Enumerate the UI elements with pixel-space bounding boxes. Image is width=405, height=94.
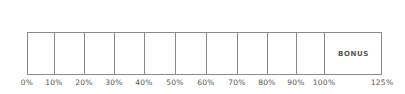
tick-label: 20%: [75, 78, 93, 87]
tick-label: 40%: [135, 78, 153, 87]
divider-10: [54, 32, 55, 75]
tick-label: 70%: [228, 78, 246, 87]
tick-label: 60%: [197, 78, 215, 87]
tick-label: 80%: [258, 78, 276, 87]
tick-label: 100%: [313, 78, 336, 87]
tick-label: 30%: [105, 78, 123, 87]
divider-30: [114, 32, 115, 75]
divider-70: [237, 32, 238, 75]
tick-label: 10%: [45, 78, 63, 87]
divider-40: [144, 32, 145, 75]
divider-20: [84, 32, 85, 75]
divider-90: [296, 32, 297, 75]
divider-80: [267, 32, 268, 75]
tick-label: 125%: [371, 78, 394, 87]
tick-label: 0%: [21, 78, 34, 87]
tick-label: 50%: [166, 78, 184, 87]
divider-50: [175, 32, 176, 75]
divider-60: [206, 32, 207, 75]
bonus-label: BONUS: [325, 32, 382, 75]
tick-label: 90%: [287, 78, 305, 87]
